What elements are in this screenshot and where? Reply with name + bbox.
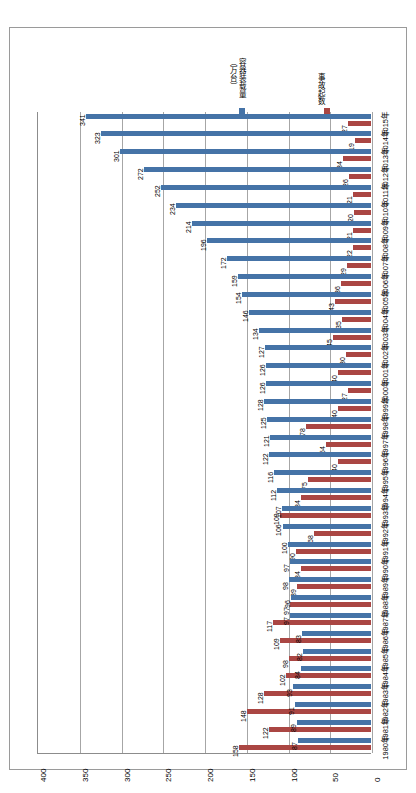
- data-label-container-load: 323: [94, 132, 101, 144]
- bar-row: 12840: [38, 397, 371, 415]
- value-tick-label: 400: [40, 769, 48, 782]
- category-label: 1983年: [372, 683, 416, 701]
- bar-accidents: [326, 442, 371, 447]
- bar-accidents: [346, 352, 371, 357]
- bar-row: 34127: [38, 112, 371, 130]
- bar-row: 10090: [38, 540, 371, 558]
- bar-row: 84102: [38, 665, 371, 683]
- bar-container-load: [238, 274, 371, 279]
- value-tick-label: 100: [291, 769, 299, 782]
- category-label: 2001年: [372, 362, 416, 380]
- chart-frame: 容器装载量（万台） 事故起数 3412732319301342722625221…: [9, 27, 407, 770]
- category-label: 1988年: [372, 594, 416, 612]
- bar-accidents: [301, 566, 371, 571]
- bar-accidents: [341, 281, 371, 286]
- bar-row: 12627: [38, 380, 371, 398]
- bar-row: 8298: [38, 647, 371, 665]
- bar-container-load: [297, 720, 371, 725]
- bar-container-load: [293, 684, 371, 689]
- bar-accidents: [280, 513, 371, 518]
- bar-row: 97117: [38, 611, 371, 629]
- bar-container-load: [266, 381, 371, 386]
- bar-container-load: [277, 488, 371, 493]
- data-label-container-load: 134: [252, 328, 259, 340]
- data-label-container-load: 272: [137, 168, 144, 180]
- category-label: 1993年: [372, 504, 416, 522]
- bar-accidents: [335, 299, 371, 304]
- data-label-container-load: 98: [282, 582, 289, 590]
- category-label: 2012年: [372, 166, 416, 184]
- category-label: 1989年: [372, 576, 416, 594]
- data-label-container-load: 106: [275, 524, 282, 536]
- bar-accidents: [269, 727, 371, 732]
- bar-container-load: [301, 666, 371, 671]
- bar-container-load: [283, 524, 372, 529]
- bar-container-load: [266, 363, 371, 368]
- bar-container-load: [227, 256, 371, 261]
- bar-container-load: [242, 292, 371, 297]
- bar-row: 12240: [38, 451, 371, 469]
- category-label: 1998年: [372, 415, 416, 433]
- bar-row: 11284: [38, 487, 371, 505]
- bar-container-load: [86, 114, 371, 119]
- data-label-container-load: 234: [169, 203, 176, 215]
- bar-row: 12640: [38, 362, 371, 380]
- bar-row: 15443: [38, 290, 371, 308]
- category-label: 1984年: [372, 665, 416, 683]
- category-label: 2010年: [372, 201, 416, 219]
- category-label: 1987年: [372, 611, 416, 629]
- data-label-container-load: 214: [185, 221, 192, 233]
- legend-item-container-load: 容器装载量（万台）: [225, 58, 265, 114]
- bar-row: 107109: [38, 504, 371, 522]
- bar-accidents: [338, 459, 371, 464]
- bar-accidents: [338, 370, 371, 375]
- data-label-container-load: 87: [291, 742, 298, 750]
- data-label-container-load: 97: [283, 564, 290, 572]
- bar-container-load: [176, 203, 371, 208]
- data-label-container-load: 196: [200, 239, 207, 251]
- bar-row: 9889: [38, 576, 371, 594]
- bar-row: 89122: [38, 718, 371, 736]
- bar-rows: 3412732319301342722625221234202142119622…: [38, 112, 371, 753]
- category-label: 2006年: [372, 273, 416, 291]
- category-label: 2003年: [372, 326, 416, 344]
- bar-row: 25221: [38, 183, 371, 201]
- bar-accidents: [333, 335, 371, 340]
- category-label: 1990年: [372, 558, 416, 576]
- plot-area: 3412732319301342722625221234202142119622…: [37, 112, 371, 754]
- bar-container-load: [302, 631, 371, 636]
- data-label-container-load: 93: [286, 689, 293, 697]
- bar-row: 87158: [38, 736, 371, 754]
- bar-container-load: [101, 131, 371, 136]
- category-label: 2015年: [372, 112, 416, 130]
- category-label: 2000年: [372, 380, 416, 398]
- bar-row: 15936: [38, 273, 371, 291]
- data-label-container-load: 252: [154, 186, 161, 198]
- bar-accidents: [353, 192, 371, 197]
- bar-row: 10668: [38, 522, 371, 540]
- bar-accidents: [239, 745, 371, 750]
- bar-container-load: [290, 613, 371, 618]
- data-label-container-load: 301: [113, 150, 120, 162]
- bar-row: 12154: [38, 433, 371, 451]
- data-label-container-load: 126: [259, 364, 266, 376]
- bar-container-load: [249, 310, 371, 315]
- bar-container-load: [207, 238, 371, 243]
- category-label: 2008年: [372, 237, 416, 255]
- category-label: 2002年: [372, 344, 416, 362]
- bar-container-load: [265, 345, 371, 350]
- bar-row: 23420: [38, 201, 371, 219]
- data-label-container-load: 154: [235, 293, 242, 305]
- bar-accidents: [347, 263, 371, 268]
- value-tick-label: 350: [82, 769, 90, 782]
- category-label: 2013年: [372, 148, 416, 166]
- bar-accidents: [247, 709, 371, 714]
- bar-accidents: [353, 228, 371, 233]
- bar-accidents: [354, 210, 371, 215]
- category-label: 1999年: [372, 397, 416, 415]
- bar-container-load: [291, 595, 371, 600]
- value-tick-label: 200: [207, 769, 215, 782]
- bar-accidents: [348, 121, 371, 126]
- bar-accidents: [314, 531, 371, 536]
- bar-row: 17229: [38, 255, 371, 273]
